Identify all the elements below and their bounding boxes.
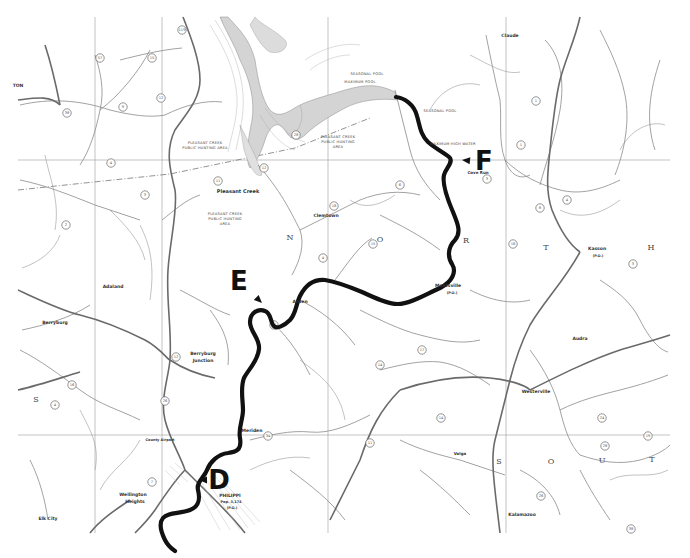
svg-text:14: 14 [439,416,444,420]
svg-text:15: 15 [150,56,155,60]
route-shield: 28 [601,442,609,450]
area-label: PLEASANT CREEK [208,212,243,216]
route-shield: 7 [148,478,156,486]
place-label: Arden [292,299,307,304]
area-label: MAXIMUM POOL [344,80,375,84]
region-letter: H [648,243,655,252]
place-label: Kasson [588,246,606,251]
place-label: Heights [125,499,145,504]
svg-text:7: 7 [151,480,153,484]
svg-text:3: 3 [632,262,634,266]
route-shield: 28 [292,131,300,139]
route-shield: 34 [264,432,272,440]
place-label: Adaland [103,284,124,289]
svg-text:18: 18 [332,204,337,208]
route-shield: 6 [396,181,404,189]
area-label: PLEASANT CREEK [188,141,223,145]
place-label: Audra [572,336,587,341]
route-shield: 57 [96,54,104,62]
route-shield: 16 [68,381,76,389]
svg-text:26: 26 [163,399,168,403]
route-shield: 4 [563,196,571,204]
route-shield: 26 [537,492,545,500]
route-shield: 24 [598,414,606,422]
route-shield: 12 [260,164,268,172]
route-shield: 1 [517,141,525,149]
area-label: SEASONAL POOL [351,72,384,76]
region-letter: T [649,455,655,464]
area-label: PUBLIC HUNTING AREA [182,146,228,150]
region-letter: O [377,235,384,244]
area-label: AREA [333,145,344,149]
place-label: Claude [501,33,518,38]
area-label: PUBLIC HUNTING [321,140,355,144]
route-shield: 14 [437,414,445,422]
route-shield: 11 [214,177,222,185]
route-shield: 26 [161,397,169,405]
place-label: Pleasant Creek [217,188,260,194]
route-shield: 119 [178,26,186,34]
region-letter: S [33,395,38,404]
svg-text:38: 38 [65,111,70,115]
svg-text:28: 28 [294,133,299,137]
place-label: Pop. 3,174 [220,500,242,504]
place-label: (P.O.) [593,254,604,258]
place-label: County Airport [145,438,174,442]
marker-letter: D [208,465,230,495]
route-shield: 14 [376,361,384,369]
marker-letter: F [475,146,493,176]
route-shield: 3 [483,175,491,183]
region-letter: O [548,457,555,466]
route-shield: 4 [107,159,115,167]
area-label: PUBLIC HUNTING [208,217,242,221]
marker-letter: E [230,266,248,296]
place-label: Clemtown [313,213,338,218]
route-shield: 8 [536,204,544,212]
svg-text:11: 11 [216,179,221,183]
svg-text:17: 17 [420,348,425,352]
place-label: Volga [454,451,467,456]
topographic-map: 1195738159124231112281841563114814141734… [0,0,690,558]
area-label: AREA [220,222,231,226]
svg-text:14: 14 [378,363,383,367]
route-shield: 4 [319,254,327,262]
place-label: TON [13,83,24,88]
place-label: Berryburg [190,351,216,356]
place-label: Meriden [242,428,263,433]
route-shield: 2 [62,221,70,229]
svg-text:19: 19 [646,434,651,438]
svg-text:16: 16 [70,383,75,387]
route-shield: 38 [627,525,635,533]
place-label: Berryburg [42,320,68,325]
svg-text:16: 16 [511,242,516,246]
route-shield: 18 [330,202,338,210]
svg-text:12: 12 [159,96,164,100]
route-shield: 19 [644,432,652,440]
svg-text:11: 11 [368,441,373,445]
place-label: (P.O.) [227,506,238,510]
route-shield: 11 [366,439,374,447]
route-shield: 1 [532,97,540,105]
place-label: Kalamazoo [508,512,536,517]
svg-text:34: 34 [266,434,271,438]
svg-text:119: 119 [179,28,187,32]
place-label: Elk City [38,516,57,521]
route-shield: 4 [51,401,59,409]
svg-text:28: 28 [603,444,608,448]
svg-text:38: 38 [629,527,634,531]
svg-text:1: 1 [535,99,537,103]
region-letter: R [463,236,470,245]
place-label: Moatsville [435,283,461,288]
svg-text:24: 24 [600,416,605,420]
svg-text:3: 3 [144,193,146,197]
region-letter: U [599,456,606,465]
svg-text:12: 12 [174,355,179,359]
route-shield: 12 [157,94,165,102]
place-label: (P.O.) [447,291,458,295]
route-shield: 17 [418,346,426,354]
area-label: PLEASANT CREEK [321,135,356,139]
svg-text:2: 2 [65,223,67,227]
svg-text:12: 12 [262,166,267,170]
route-shield: 3 [141,191,149,199]
route-shield: 12 [172,353,180,361]
